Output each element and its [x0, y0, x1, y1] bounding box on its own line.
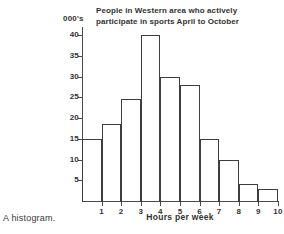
y-axis-unit-label: 000's — [63, 14, 84, 23]
histogram-bar — [239, 184, 259, 202]
x-axis-title: Hours per week — [82, 212, 278, 222]
x-tick-mark — [278, 201, 279, 206]
plot-area: 510152025303540 12345678910 — [82, 27, 278, 202]
histogram-bar — [258, 189, 278, 202]
y-tick-label: 35 — [70, 51, 79, 60]
histogram-bar — [141, 35, 161, 202]
y-tick-label: 40 — [70, 30, 79, 39]
chart-title: People in Western area who actively part… — [96, 5, 284, 27]
y-tick-label: 20 — [70, 113, 79, 122]
y-tick-label: 15 — [70, 134, 79, 143]
histogram-bar — [160, 77, 180, 202]
y-tick-label: 30 — [70, 72, 79, 81]
histogram-bar — [219, 160, 239, 202]
y-tick-label: 10 — [70, 155, 79, 164]
histogram-bar — [82, 139, 102, 202]
y-tick-label: 5 — [74, 175, 79, 184]
chart-title-line-1: People in Western area who actively — [96, 5, 284, 16]
histogram-bar — [200, 139, 220, 202]
figure-caption: A histogram. — [3, 213, 55, 223]
y-tick-label: 25 — [70, 92, 79, 101]
histogram-bar — [102, 124, 122, 202]
histogram-bar — [180, 85, 200, 202]
chart-title-line-2: participate in sports April to October — [96, 16, 284, 27]
histogram-bar — [121, 99, 141, 202]
